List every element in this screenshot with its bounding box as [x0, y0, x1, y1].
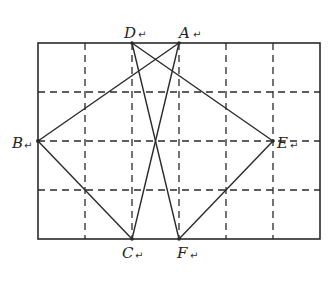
return-mark-icon: ↵ [24, 140, 32, 151]
label-A: A [177, 24, 190, 42]
return-mark-icon: ↵ [193, 29, 201, 40]
return-mark-icon: ↵ [138, 29, 146, 40]
vertex-E [271, 139, 275, 143]
segments [38, 43, 273, 239]
label-F: F [176, 244, 188, 262]
segment-DE [132, 43, 273, 141]
label-D: D [123, 24, 136, 42]
vertex-C [130, 237, 134, 241]
label-B: B [11, 134, 23, 152]
return-mark-icon: ↵ [190, 250, 198, 261]
return-mark-icon: ↵ [290, 140, 298, 151]
vertex-F [177, 237, 181, 241]
vertex-B [36, 139, 40, 143]
geometry-diagram: D ↵ A ↵ B ↵ E ↵ C ↵ F ↵ [0, 0, 334, 290]
label-C: C [122, 244, 134, 262]
label-E: E [276, 134, 288, 152]
segment-AB [38, 43, 179, 141]
return-mark-icon: ↵ [135, 250, 143, 261]
